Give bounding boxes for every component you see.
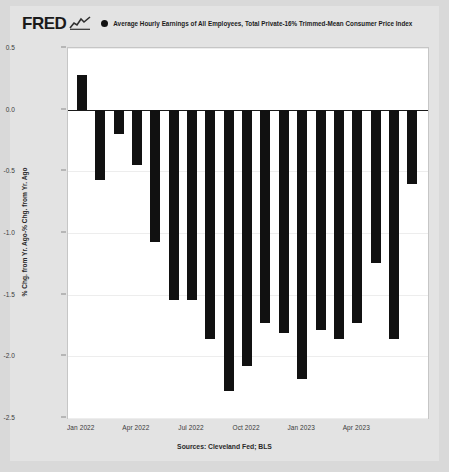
bar	[389, 110, 399, 339]
bar	[407, 110, 417, 184]
bar	[77, 75, 87, 110]
fred-logo: FRED	[22, 15, 66, 32]
legend: Average Hourly Earnings of All Employees…	[101, 20, 412, 27]
bar	[279, 110, 289, 333]
bar	[316, 110, 326, 331]
y-axis-tick-mark	[61, 417, 66, 418]
bar	[150, 110, 160, 242]
y-axis-tick-mark	[61, 293, 66, 294]
y-axis-tick-mark	[61, 108, 66, 109]
bar	[297, 110, 307, 379]
chart-panel: FRED Average Hourly Earnings of All Empl…	[10, 6, 439, 461]
bar	[260, 110, 270, 323]
x-axis-tick-label: Jan 2022	[67, 424, 95, 431]
sources-note: Sources: Cleveland Fed; BLS	[10, 443, 439, 450]
y-axis-tick-label: -1.5	[3, 290, 15, 297]
y-axis-tick-label: -1.0	[3, 229, 15, 236]
bar	[114, 110, 124, 135]
bar	[95, 110, 105, 180]
bar	[205, 110, 215, 339]
x-axis-tick-label: Apr 2023	[343, 424, 370, 431]
y-axis-tick-label: -2.0	[3, 352, 15, 359]
bar-series	[68, 48, 428, 418]
bar	[242, 110, 252, 367]
y-axis-tick-label: 0.5	[6, 44, 15, 51]
bar	[132, 110, 142, 166]
x-axis-tick-label: Jan 2023	[287, 424, 315, 431]
y-axis-tick-mark	[61, 355, 66, 356]
x-axis-tick-label: Apr 2022	[122, 424, 149, 431]
fred-chart-card: FRED Average Hourly Earnings of All Empl…	[0, 0, 449, 472]
bar	[169, 110, 179, 300]
gridline	[68, 418, 428, 419]
bar	[352, 110, 362, 323]
y-axis-tick-mark	[61, 47, 66, 48]
bar	[187, 110, 197, 300]
squiggle-chart-icon	[69, 16, 91, 30]
chart-header: FRED Average Hourly Earnings of All Empl…	[22, 12, 412, 34]
legend-series-label: Average Hourly Earnings of All Employees…	[113, 20, 412, 27]
y-axis-tick-label: -0.5	[3, 167, 15, 174]
x-axis-tick-label: Jul 2022	[178, 424, 203, 431]
plot-area	[67, 47, 429, 419]
y-axis-tick-mark	[61, 232, 66, 233]
y-axis-tick-label: -2.5	[3, 414, 15, 421]
y-axis-label: % Chg. from Yr. Ago-% Chg. from Yr. Ago	[21, 168, 28, 297]
y-axis-tick-mark	[61, 170, 66, 171]
x-axis-tick-label: Oct 2022	[232, 424, 259, 431]
bar	[371, 110, 381, 263]
y-axis-tick-label: 0.0	[6, 105, 15, 112]
bar	[224, 110, 234, 391]
legend-dot-icon	[101, 20, 108, 27]
bar	[334, 110, 344, 339]
